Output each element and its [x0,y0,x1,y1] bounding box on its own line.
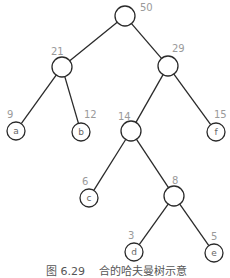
tree-edge [174,74,211,125]
internal-node: 21 [51,46,72,77]
node-weight-label: 5 [211,231,217,242]
leaf-node-e: e5 [205,231,223,262]
node-weight-label: 3 [128,230,134,241]
internal-node: 14 [118,111,141,141]
internal-node: 29 [158,43,185,76]
node-symbol-label: c [87,193,92,203]
figure-caption: 图 6.29 合的哈夫曼树示意 [46,262,187,278]
tree-edge [136,75,163,123]
node-circle [121,121,141,141]
node-weight-label: 29 [172,43,185,54]
tree-edge [180,204,209,245]
tree-edge [21,75,56,124]
node-circle [164,186,184,206]
node-weight-label: 15 [214,109,227,120]
node-circle [115,6,135,26]
tree-edges [21,22,210,245]
node-symbol-label: d [131,247,137,257]
tree-edge [94,139,126,190]
node-weight-label: 12 [84,109,97,120]
leaf-node-d: d3 [125,230,143,261]
node-weight-label: 9 [7,109,13,120]
leaf-node-f: f15 [207,109,227,141]
node-symbol-label: a [13,126,19,136]
tree-edge [137,139,169,187]
leaf-node-a: a9 [7,109,25,140]
node-weight-label: 21 [51,46,64,57]
node-weight-label: 6 [82,176,88,187]
node-weight-label: 50 [140,2,153,13]
tree-edge [132,24,162,59]
internal-node: 50 [115,2,153,26]
tree-edge [139,204,168,245]
node-weight-label: 8 [172,175,178,186]
node-circle [158,56,178,76]
node-circle [52,57,72,77]
node-weight-label: 14 [118,111,131,122]
leaf-node-c: c6 [80,176,98,207]
tree-edge [70,22,117,60]
node-symbol-label: b [78,127,84,137]
internal-node: 8 [164,175,184,206]
tree-edge [65,77,79,124]
tree-nodes: 502129a9b1214f15c68d3e5 [7,2,227,262]
node-symbol-label: e [211,248,217,258]
